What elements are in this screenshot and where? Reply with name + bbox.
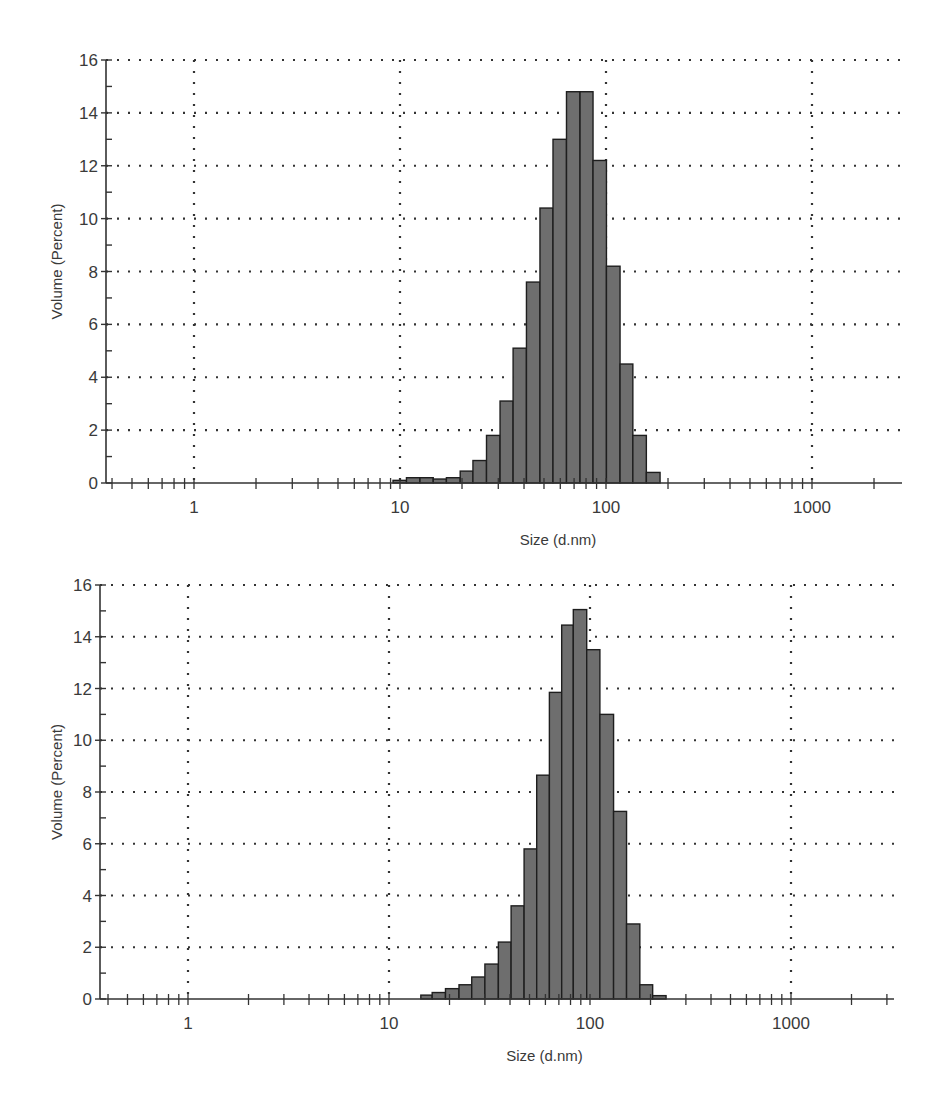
- bottom-size-distribution-chart: 02468101214161101001000Size (d.nm)Volume…: [0, 545, 938, 1098]
- y-tick-label: 8: [89, 263, 98, 282]
- top-size-distribution-chart: 02468101214161101001000Size (d.nm)Volume…: [0, 0, 938, 550]
- histogram-bars: [421, 610, 666, 999]
- histogram-bar: [432, 993, 445, 999]
- histogram-bar: [540, 208, 553, 483]
- x-tick-label: 100: [576, 1014, 604, 1033]
- histogram-bar: [549, 692, 561, 999]
- histogram-bar: [614, 811, 627, 999]
- histogram-bar: [500, 401, 513, 483]
- y-tick-label: 6: [83, 835, 92, 854]
- y-tick-label: 6: [89, 315, 98, 334]
- histogram-bar: [487, 435, 501, 483]
- histogram-bar: [566, 92, 580, 483]
- histogram-bar: [620, 364, 633, 483]
- histogram-bar: [587, 650, 600, 999]
- x-tick-label: 1000: [793, 498, 831, 517]
- y-tick-label: 14: [79, 104, 98, 123]
- histogram-bar: [472, 977, 485, 999]
- histogram-bars: [393, 92, 660, 483]
- histogram-bar: [445, 989, 459, 999]
- histogram-bar: [627, 924, 640, 999]
- histogram-bar: [646, 472, 660, 483]
- histogram-bar: [473, 461, 487, 483]
- x-tick-label: 1: [189, 498, 198, 517]
- histogram-bar: [524, 849, 537, 999]
- histogram-bar: [485, 964, 498, 999]
- histogram-bar: [593, 160, 606, 483]
- y-tick-label: 2: [83, 938, 92, 957]
- y-tick-label: 12: [79, 157, 98, 176]
- x-tick-label: 10: [391, 498, 410, 517]
- histogram-bar: [537, 775, 550, 999]
- y-tick-label: 0: [89, 474, 98, 493]
- y-tick-label: 16: [79, 51, 98, 70]
- histogram-bar: [600, 714, 614, 999]
- y-tick-label: 16: [73, 576, 92, 595]
- y-tick-label: 10: [73, 731, 92, 750]
- x-tick-label: 1: [183, 1014, 192, 1033]
- histogram-bar: [498, 942, 511, 999]
- y-tick-label: 4: [83, 887, 92, 906]
- histogram-bar: [606, 266, 620, 483]
- histogram-bar: [526, 282, 540, 483]
- histogram-bar: [573, 610, 586, 999]
- histogram-bar: [553, 139, 566, 483]
- y-tick-label: 0: [83, 990, 92, 1009]
- x-tick-label: 10: [380, 1014, 399, 1033]
- x-axis-title: Size (d.nm): [506, 1047, 583, 1064]
- y-tick-label: 8: [83, 783, 92, 802]
- y-tick-label: 10: [79, 210, 98, 229]
- chart-plot-area: 02468101214161101001000Size (d.nm)Volume…: [0, 0, 938, 550]
- histogram-bar: [562, 625, 574, 999]
- y-tick-label: 14: [73, 628, 92, 647]
- histogram-bar: [513, 348, 526, 483]
- y-axis-title: Volume (Percent): [48, 724, 65, 840]
- y-tick-label: 4: [89, 368, 98, 387]
- x-tick-label: 1000: [772, 1014, 810, 1033]
- chart-plot-area: 02468101214161101001000Size (d.nm)Volume…: [0, 545, 938, 1098]
- histogram-bar: [580, 92, 593, 483]
- y-tick-label: 12: [73, 680, 92, 699]
- histogram-bar: [459, 985, 472, 999]
- histogram-bar: [511, 906, 524, 999]
- x-tick-label: 100: [592, 498, 620, 517]
- y-axis-title: Volume (Percent): [48, 204, 65, 320]
- histogram-bar: [633, 435, 647, 483]
- y-tick-label: 2: [89, 421, 98, 440]
